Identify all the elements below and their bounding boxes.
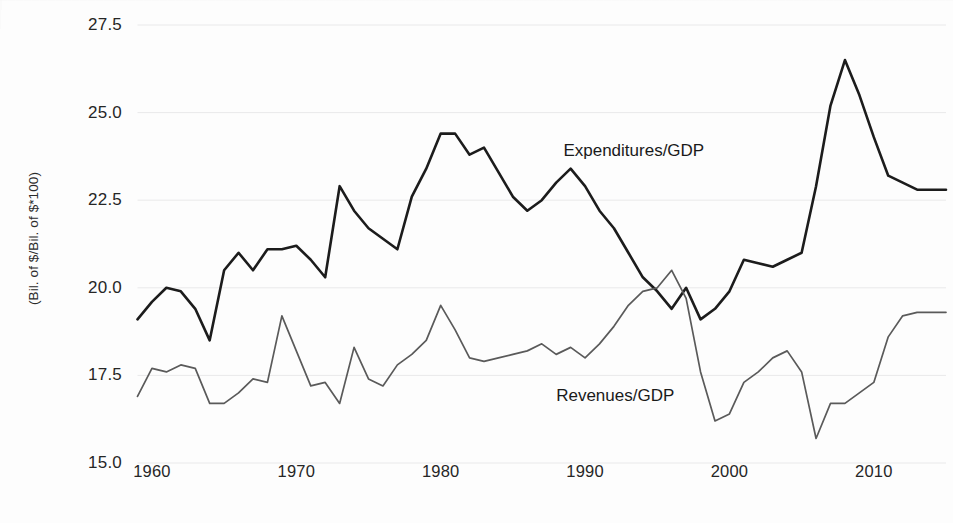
x-tick-label: 1960 <box>133 462 171 481</box>
x-tick-label: 2010 <box>855 462 893 481</box>
x-tick-label: 1990 <box>566 462 604 481</box>
series-label-expenditures-gdp: Expenditures/GDP <box>563 141 704 161</box>
series-line-revenues-gdp <box>138 270 947 438</box>
series-label-revenues-gdp: Revenues/GDP <box>556 386 674 406</box>
plot-svg <box>0 0 953 523</box>
x-tick-label: 2000 <box>711 462 749 481</box>
chart-container: (Bil. of $/Bil. of $*100) 15.017.520.022… <box>0 0 953 523</box>
series-lines <box>138 60 947 438</box>
gridlines <box>138 25 947 463</box>
x-tick-label: 1970 <box>278 462 316 481</box>
x-tick-label: 1980 <box>422 462 460 481</box>
